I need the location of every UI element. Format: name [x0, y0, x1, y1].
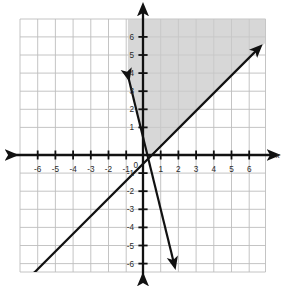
x-tick-label: -3	[87, 165, 95, 174]
y-tick-label: 4	[129, 69, 134, 78]
y-tick-label: -3	[127, 205, 135, 214]
y-tick-label: -5	[127, 242, 135, 251]
x-tick-label: -4	[69, 165, 77, 174]
y-tick-label: -2	[127, 187, 135, 196]
x-tick-label: 5	[229, 165, 234, 174]
coordinate-plane-svg: -6 -5 -4 -3 -2 -1 1 2 3 4 5 6 -6 -5 -4 -…	[0, 0, 287, 287]
x-tick-label: 3	[194, 165, 199, 174]
y-tick-label: 5	[129, 51, 134, 60]
y-tick-label: 6	[129, 33, 134, 42]
x-tick-label: -2	[105, 165, 113, 174]
y-tick-label: 2	[129, 105, 134, 114]
x-tick-label: -6	[34, 165, 42, 174]
y-tick-label: -1	[127, 169, 135, 178]
origin-label: 0	[133, 161, 138, 170]
x-axis-label: x	[275, 150, 280, 160]
x-tick-label: 1	[158, 165, 163, 174]
x-tick-label: 6	[247, 165, 252, 174]
x-tick-label: 4	[212, 165, 217, 174]
x-tick-label: -5	[52, 165, 60, 174]
x-tick-label: 2	[176, 165, 181, 174]
y-tick-label: -4	[127, 223, 135, 232]
y-tick-label: 1	[129, 123, 134, 132]
y-tick-label: 3	[129, 87, 134, 96]
y-tick-label: -6	[127, 260, 135, 269]
graph-figure: -6 -5 -4 -3 -2 -1 1 2 3 4 5 6 -6 -5 -4 -…	[0, 0, 287, 287]
